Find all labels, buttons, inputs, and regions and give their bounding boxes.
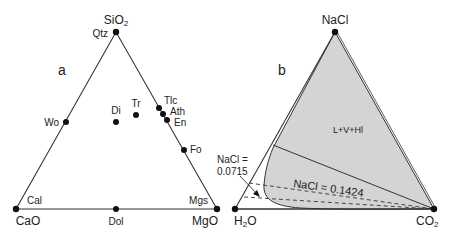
vertex-label-h2o: H2O (234, 214, 256, 229)
vertex-label-cao: CaO (16, 214, 41, 228)
vertex-dot-nacl (332, 29, 338, 35)
vertex-label-mgo: MgO (192, 214, 218, 228)
point-label-tlc: Tlc (164, 95, 177, 106)
vertex-label-co2: CO2 (416, 214, 439, 229)
diagram-canvas: SiO2 Qtz a CaO Cal MgO Mgs Wo Di Tr Tlc … (0, 0, 452, 239)
shaded-region-l-v-hl (264, 32, 434, 209)
panel-b: NaCl b L+V+Hl NaCl = 0.0715 NaCl = 0.142… (217, 13, 439, 229)
region-label: L+V+Hl (333, 125, 363, 135)
point-wo (63, 119, 69, 125)
panel-letter-b: b (278, 62, 286, 78)
vertex-label-sio2: SiO2 (104, 13, 129, 28)
mineral-label-cal: Cal (27, 195, 42, 206)
panel-a: SiO2 Qtz a CaO Cal MgO Mgs Wo Di Tr Tlc … (13, 13, 220, 228)
point-label-en: En (174, 117, 186, 128)
mineral-label-qtz: Qtz (92, 28, 108, 39)
point-label-tr: Tr (131, 98, 141, 109)
vertex-dot-cao (13, 206, 19, 212)
vertex-dot-h2o (232, 206, 238, 212)
point-label-ath: Ath (170, 106, 185, 117)
point-di (113, 119, 119, 125)
annotation-nacl-0-0715-line1: NaCl = (217, 154, 248, 165)
point-tr (133, 112, 139, 118)
point-label-wo: Wo (44, 117, 59, 128)
point-label-dol: Dol (108, 216, 123, 227)
point-ath (160, 111, 166, 117)
point-label-di: Di (111, 105, 120, 116)
mineral-label-mgs: Mgs (189, 195, 208, 206)
vertex-dot-sio2 (113, 29, 119, 35)
vertex-label-nacl: NaCl (322, 13, 349, 27)
panel-letter-a: a (58, 62, 66, 78)
point-dol (113, 206, 119, 212)
annotation-nacl-0-0715-line2: 0.0715 (217, 166, 248, 177)
vertex-dot-mgo (214, 206, 220, 212)
point-en (164, 117, 170, 123)
point-label-fo: Fo (190, 144, 202, 155)
point-tlc (156, 105, 162, 111)
point-fo (181, 147, 187, 153)
vertex-dot-co2 (431, 206, 437, 212)
